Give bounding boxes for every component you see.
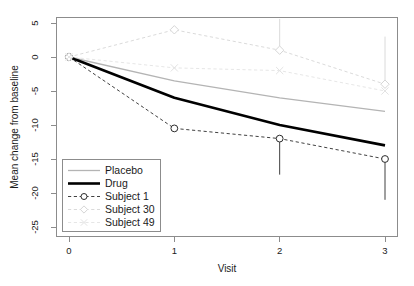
chart-legend: PlaceboDrugSubject 1Subject 30Subject 49: [62, 159, 161, 232]
y-tick-label: -20: [29, 186, 40, 200]
legend-key-subject-49: [67, 215, 101, 228]
legend-label: Subject 1: [105, 190, 149, 202]
legend-item: Placebo: [67, 163, 155, 176]
data-point-marker: [170, 26, 178, 34]
legend-label: Subject 49: [105, 216, 155, 228]
x-tick-label: 1: [172, 245, 177, 256]
y-tick-label: -10: [29, 118, 40, 132]
series-line: [69, 57, 385, 159]
legend-label: Placebo: [105, 164, 143, 176]
data-point-marker: [171, 125, 178, 132]
legend-key-subject-30: [67, 202, 101, 215]
x-tick-label: 0: [66, 245, 71, 256]
y-tick-label: 5: [29, 20, 40, 25]
data-point-marker: [276, 67, 283, 74]
x-axis-title: Visit: [218, 263, 237, 274]
y-tick-label: -25: [29, 220, 40, 234]
chart-figure: 50-5-10-15-20-25 0123 Mean change from b…: [0, 0, 414, 286]
x-tick-label: 2: [277, 245, 282, 256]
series-drug: [69, 57, 385, 145]
legend-marker: [80, 206, 87, 213]
series-placebo: [69, 57, 385, 111]
data-point-marker: [171, 64, 178, 71]
legend-item: Drug: [67, 176, 155, 189]
series-subject-30: [65, 19, 389, 88]
legend-key-placebo: [67, 163, 101, 176]
legend-label: Subject 30: [105, 203, 155, 215]
legend-item: Subject 49: [67, 215, 155, 228]
data-point-marker: [275, 46, 283, 54]
data-point-marker: [276, 135, 283, 142]
legend-key-icon: [67, 216, 101, 229]
series-line: [69, 57, 385, 111]
y-tick-label: -5: [29, 87, 40, 95]
y-axis-title: Mean change from baseline: [9, 65, 20, 188]
data-point-marker: [381, 80, 389, 88]
series-line: [69, 57, 385, 145]
x-tick-label: 3: [382, 245, 387, 256]
legend-label: Drug: [105, 177, 128, 189]
legend-key-drug: [67, 176, 101, 189]
legend-marker: [81, 194, 87, 200]
y-tick-label: 0: [29, 54, 40, 59]
data-point-marker: [382, 156, 389, 163]
chart-canvas: [0, 0, 414, 286]
y-tick-label: -15: [29, 152, 40, 166]
legend-key-subject-1: [67, 189, 101, 202]
legend-item: Subject 1: [67, 189, 155, 202]
legend-item: Subject 30: [67, 202, 155, 215]
